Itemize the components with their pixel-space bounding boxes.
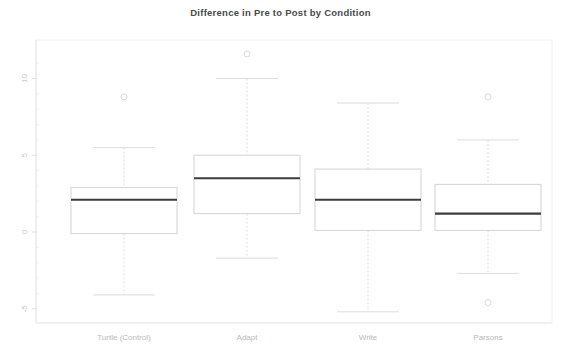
plot-axes	[36, 40, 552, 323]
x-axis-tick-label: Write	[359, 333, 378, 342]
outlier-point	[244, 51, 250, 57]
x-axis-labels: Turtle (Control)AdaptWriteParsons	[97, 333, 502, 342]
boxplot-box	[194, 51, 300, 258]
y-axis-tick-label: 0	[20, 229, 29, 234]
box-iqr-rect	[194, 155, 300, 213]
y-axis-tick-label: 5	[20, 152, 29, 157]
outlier-point	[485, 300, 491, 306]
x-axis-tick-label: Turtle (Control)	[97, 333, 151, 342]
boxplot-box	[315, 103, 421, 312]
boxplot-canvas: 1050-5Turtle (Control)AdaptWriteParsons	[0, 0, 561, 350]
y-axis-ticks: 1050-5	[20, 74, 37, 313]
box-iqr-rect	[71, 187, 177, 233]
x-axis-tick-label: Adapt	[237, 333, 259, 342]
y-axis-tick-label: 10	[20, 74, 29, 83]
outlier-point	[485, 94, 491, 100]
x-axis-tick-label: Parsons	[473, 333, 502, 342]
outlier-point	[121, 94, 127, 100]
y-axis-tick-label: -5	[20, 305, 29, 313]
box-iqr-rect	[435, 184, 541, 230]
chart-figure: Difference in Pre to Post by Condition 1…	[0, 0, 561, 350]
boxplot-box	[71, 94, 177, 295]
boxplot-box	[435, 94, 541, 306]
